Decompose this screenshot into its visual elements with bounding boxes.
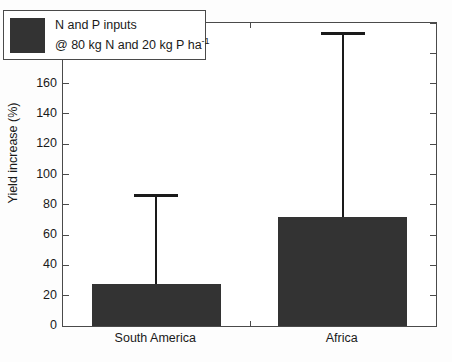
y-axis-tick: [63, 174, 69, 175]
error-bar-stem: [155, 194, 157, 283]
y-axis-tick: [63, 295, 69, 296]
bar-south-america: [92, 284, 221, 326]
error-bar-stem: [342, 32, 344, 217]
y-axis-tick: [63, 144, 69, 145]
legend-swatch-n-and-p-inputs: [10, 18, 45, 53]
y-axis-tick: [63, 265, 69, 266]
y-axis-tick: [430, 144, 436, 145]
x-axis-label-africa: Africa: [326, 331, 358, 345]
y-axis-tick: [430, 53, 436, 54]
y-axis-tick: [63, 113, 69, 114]
legend-text: N and P inputs @ 80 kg N and 20 kg P ha-…: [55, 17, 210, 53]
x-axis-tick: [250, 321, 251, 326]
figure-bar-chart: Yield increase (%) 020406080100120140160…: [0, 0, 452, 362]
y-axis-tick-label: 60: [1, 227, 57, 241]
y-axis-tick: [63, 326, 69, 327]
y-axis-tick: [430, 113, 436, 114]
y-axis-tick-label: 80: [1, 197, 57, 211]
y-axis-tick-label: 0: [1, 318, 57, 332]
y-axis-tick: [430, 174, 436, 175]
y-axis-tick-label: 120: [1, 136, 57, 150]
y-axis-tick-label: 20: [1, 288, 57, 302]
y-axis-tick: [63, 204, 69, 205]
y-axis-tick-label: 140: [1, 106, 57, 120]
chart-legend: N and P inputs @ 80 kg N and 20 kg P ha-…: [3, 10, 206, 60]
y-axis-tick: [430, 204, 436, 205]
y-axis-tick: [430, 83, 436, 84]
bar-africa: [278, 217, 407, 326]
y-axis-tick: [63, 235, 69, 236]
plot-area: 020406080100120140160180200: [62, 22, 437, 327]
y-axis-tick-label: 40: [1, 257, 57, 271]
legend-line-1: N and P inputs: [55, 17, 210, 33]
y-axis-tick: [63, 83, 69, 84]
y-axis-tick: [430, 23, 436, 24]
y-axis-tick: [430, 295, 436, 296]
y-axis-tick: [430, 235, 436, 236]
x-axis-label-south-america: South America: [115, 331, 196, 345]
y-axis-tick: [430, 265, 436, 266]
x-axis-tick: [250, 23, 251, 28]
y-axis-tick-label: 160: [1, 76, 57, 90]
error-bar-cap: [321, 32, 365, 35]
y-axis-tick: [430, 326, 436, 327]
y-axis-tick-label: 100: [1, 167, 57, 181]
legend-line-2: @ 80 kg N and 20 kg P ha-1: [55, 33, 210, 53]
legend-line-2-text: @ 80 kg N and 20 kg P ha: [55, 38, 202, 52]
legend-line-2-exponent: -1: [202, 36, 210, 46]
error-bar-cap: [134, 194, 178, 197]
